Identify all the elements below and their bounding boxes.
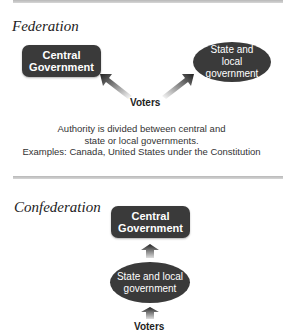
arrow-up-to-central-icon [141, 244, 159, 258]
confederation-central-government-box: Central Government [111, 206, 190, 238]
arrow-to-state-icon [160, 72, 196, 100]
arrow-up-to-state-icon [141, 307, 159, 319]
central-government-label: Central Government [116, 210, 186, 234]
federation-voters-label: Voters [130, 97, 160, 108]
central-government-label: Central Government [27, 49, 97, 73]
confederation-state-local-ellipse: State and local government [110, 262, 190, 303]
state-local-label: State and local government [116, 271, 184, 295]
confederation-title: Confederation [14, 199, 101, 216]
top-divider [13, 0, 283, 3]
confederation-voters-label: Voters [134, 321, 164, 332]
state-local-label: State and local government [199, 44, 265, 80]
federation-caption: Authority is divided between central and… [0, 123, 283, 158]
arrow-to-central-icon [98, 72, 134, 100]
federation-state-local-ellipse: State and local government [193, 42, 271, 82]
caption-line-3: Examples: Canada, United States under th… [0, 146, 283, 158]
caption-line-2: state or local governments. [0, 135, 283, 147]
federation-title: Federation [12, 18, 79, 35]
caption-line-1: Authority is divided between central and [0, 123, 283, 135]
section-divider [13, 176, 283, 179]
federation-central-government-box: Central Government [22, 45, 101, 77]
